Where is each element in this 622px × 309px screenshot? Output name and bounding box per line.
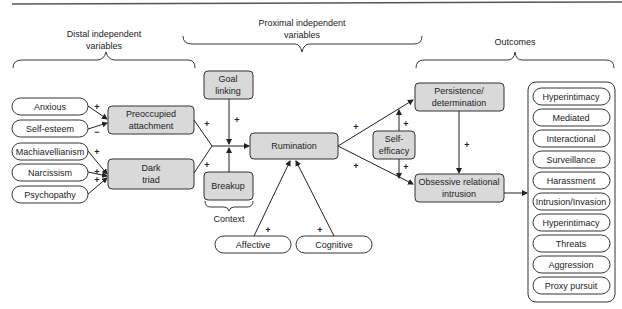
svg-text:Affective: Affective	[236, 240, 270, 250]
svg-text:Threats: Threats	[556, 239, 587, 249]
node-breakup: Breakup	[204, 172, 253, 200]
svg-text:−: −	[94, 127, 99, 137]
svg-text:+: +	[204, 119, 209, 129]
input-psychopathy: Psychopathy	[12, 186, 88, 203]
svg-text:Obsessive relational: Obsessive relational	[418, 177, 499, 187]
svg-text:+: +	[234, 115, 239, 125]
svg-text:efficacy: efficacy	[379, 146, 410, 156]
outcomes-header: Outcomes	[494, 37, 536, 47]
node-preoccupied-attachment: Preoccupied attachment	[108, 106, 194, 134]
svg-text:Hyperintimacy: Hyperintimacy	[542, 218, 600, 228]
svg-text:+: +	[353, 161, 358, 171]
svg-text:+: +	[403, 119, 408, 129]
outcome-aggression: Aggression	[533, 256, 610, 273]
distal-brace	[13, 52, 195, 68]
svg-text:triad: triad	[142, 175, 160, 185]
outcome-threats: Threats	[533, 235, 610, 252]
svg-text:intrusion: intrusion	[442, 189, 476, 199]
outcome-intrusion-invasion: Intrusion/Invasion	[533, 193, 610, 210]
svg-text:Harassment: Harassment	[547, 176, 596, 186]
svg-text:+: +	[353, 122, 358, 132]
outcome-interactional: Interactional	[533, 130, 610, 147]
svg-text:Aggression: Aggression	[548, 260, 593, 270]
distal-header: Distal independent variables	[67, 29, 142, 51]
input-anxious: Anxious	[12, 98, 88, 115]
svg-text:Machiavellianism: Machiavellianism	[16, 147, 85, 157]
svg-text:Self-: Self-	[385, 134, 404, 144]
proximal-header: Proximal independent variables	[258, 18, 346, 40]
svg-text:Self-esteem: Self-esteem	[26, 124, 74, 134]
svg-text:Intrusion/Invasion: Intrusion/Invasion	[536, 197, 607, 207]
svg-text:Proxy pursuit: Proxy pursuit	[545, 281, 598, 291]
context-brace	[205, 201, 253, 211]
top-rule	[12, 2, 622, 4]
svg-text:+: +	[94, 175, 99, 185]
svg-text:Psychopathy: Psychopathy	[24, 190, 76, 200]
context-label: Context	[213, 214, 245, 224]
node-cognitive: Cognitive	[296, 236, 372, 253]
svg-text:Breakup: Breakup	[211, 181, 245, 191]
svg-text:Anxious: Anxious	[34, 102, 67, 112]
svg-text:Outcomes: Outcomes	[494, 37, 536, 47]
svg-text:Interactional: Interactional	[546, 134, 595, 144]
node-obsessive-relational-intrusion: Obsessive relational intrusion	[415, 174, 504, 202]
svg-text:determination: determination	[432, 98, 487, 108]
svg-text:Mediated: Mediated	[552, 113, 589, 123]
outcome-proxy-pursuit: Proxy pursuit	[533, 277, 610, 294]
svg-text:Narcissism: Narcissism	[28, 168, 72, 178]
node-goal-linking: Goal linking	[204, 71, 253, 99]
diagram-canvas: Distal independent variables Proximal in…	[0, 0, 622, 309]
outcome-mediated: Mediated	[533, 109, 610, 126]
svg-text:attachment: attachment	[129, 121, 174, 131]
svg-text:Hyperintimacy: Hyperintimacy	[542, 92, 600, 102]
svg-text:variables: variables	[86, 41, 123, 51]
input-self-esteem: Self-esteem	[12, 120, 88, 137]
node-self-efficacy: Self- efficacy	[373, 131, 415, 159]
svg-text:+: +	[265, 225, 270, 235]
outcome-harassment: Harassment	[533, 172, 610, 189]
svg-text:+: +	[204, 160, 209, 170]
svg-text:Distal independent: Distal independent	[67, 29, 142, 39]
svg-text:Rumination: Rumination	[271, 141, 317, 151]
outcome-hyperintimacy-2: Hyperintimacy	[533, 214, 610, 231]
input-machiavellianism: Machiavellianism	[12, 143, 88, 160]
svg-text:linking: linking	[215, 86, 241, 96]
node-persistence: Persistence/ determination	[415, 83, 504, 111]
svg-text:+: +	[464, 140, 469, 150]
svg-text:Cognitive: Cognitive	[315, 240, 353, 250]
svg-text:variables: variables	[284, 30, 321, 40]
svg-text:Goal: Goal	[218, 74, 237, 84]
svg-text:Persistence/: Persistence/	[434, 86, 484, 96]
outcome-surveillance: Surveillance	[533, 151, 610, 168]
node-dark-triad: Dark triad	[108, 159, 194, 189]
node-rumination: Rumination	[250, 133, 338, 159]
svg-text:+: +	[403, 162, 408, 172]
input-narcissism: Narcissism	[12, 164, 88, 181]
svg-text:+: +	[317, 225, 322, 235]
svg-text:+: +	[94, 102, 99, 112]
svg-text:Surveillance: Surveillance	[546, 155, 595, 165]
svg-text:+: +	[94, 147, 99, 157]
svg-text:Proximal independent: Proximal independent	[258, 18, 346, 28]
outcome-hyperintimacy-1: Hyperintimacy	[533, 88, 610, 105]
outcomes-brace	[416, 52, 614, 68]
svg-text:Preoccupied: Preoccupied	[126, 109, 176, 119]
node-affective: Affective	[215, 236, 291, 253]
svg-text:Dark: Dark	[141, 163, 161, 173]
